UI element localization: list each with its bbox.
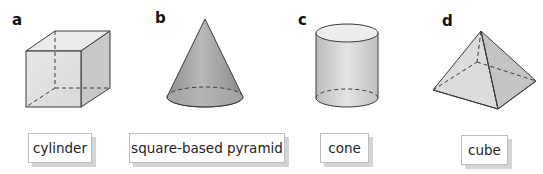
label-card-cube[interactable]: cube <box>461 135 508 165</box>
label-card-cylinder[interactable]: cylinder <box>28 133 92 163</box>
cone-shape <box>140 0 280 120</box>
label-card-cone[interactable]: cone <box>320 133 369 163</box>
cylinder-shape <box>280 0 400 120</box>
label-card-square-based-pyramid[interactable]: square-based pyramid <box>129 133 285 163</box>
pyramid-shape <box>400 0 543 120</box>
cube-shape <box>0 0 140 120</box>
